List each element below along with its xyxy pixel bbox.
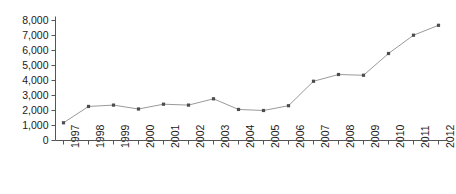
data-point-marker (87, 105, 90, 108)
data-point-marker (162, 103, 165, 106)
data-point-marker (237, 108, 240, 111)
data-point-marker (362, 74, 365, 77)
x-axis-ticks (64, 141, 439, 145)
data-point-marker (137, 107, 140, 110)
data-point-marker (62, 121, 65, 124)
data-point-marker (412, 34, 415, 37)
data-series-line (64, 25, 439, 123)
data-point-marker (212, 97, 215, 100)
data-point-marker (437, 24, 440, 27)
data-point-marker (387, 52, 390, 55)
data-point-marker (287, 104, 290, 107)
data-point-marker (312, 80, 315, 83)
axes (56, 17, 449, 141)
y-axis-ticks (52, 21, 56, 141)
data-point-marker (337, 73, 340, 76)
data-point-marker (112, 104, 115, 107)
data-point-markers (62, 24, 440, 125)
data-point-marker (262, 109, 265, 112)
data-point-marker (187, 104, 190, 107)
